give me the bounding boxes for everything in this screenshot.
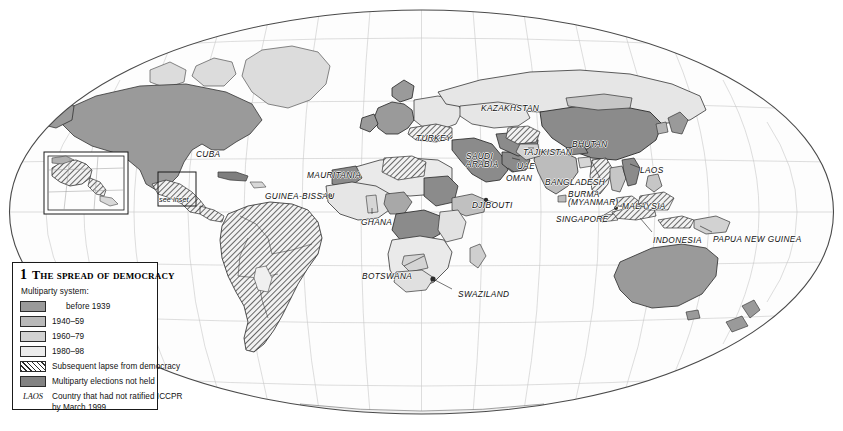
map-label-djibouti: DJIBOUTI (472, 201, 513, 209)
legend-entry-before-1939: before 1939 (20, 299, 151, 313)
map-label-cuba: CUBA (196, 150, 220, 158)
legend-entry-1940-59: 1940–59 (20, 314, 151, 328)
legend-label-no-elections: Multiparty elections not held (52, 377, 155, 386)
map-label-bangladesh: BANGLADESH (545, 178, 605, 186)
legend-entry-lapse: Subsequent lapse from democracy (20, 359, 151, 373)
legend-swatch-1940-59 (20, 316, 46, 327)
map-label-malaysia: MALAYSIA (622, 202, 666, 210)
map-label-ghana: GHANA (361, 218, 392, 226)
map-label-saudi-arabia: SAUDI ARABIA (466, 152, 499, 169)
map-label-papua-new-guinea: PAPUA NEW GUINEA (713, 235, 802, 243)
map-label-indonesia: INDONESIA (653, 236, 702, 244)
legend-swatch-1960-79 (20, 331, 46, 342)
map-label-oman: OMAN (506, 174, 532, 182)
map-label-burma-myanmar: BURMA (MYANMAR) (568, 190, 619, 207)
map-label-guinea-bissau: GUINEA-BISSAU (265, 192, 335, 200)
legend-entry-iccpr: LAOS Country that had not ratified ICCPR (20, 389, 151, 403)
inset-map (44, 152, 128, 214)
legend-swatch-before-1939 (20, 301, 46, 312)
map-label-singapore: SINGAPORE (556, 215, 608, 223)
map-label-kazakhstan: KAZAKHSTAN (481, 104, 539, 112)
legend-entry-no-elections: Multiparty elections not held (20, 374, 151, 388)
legend-entry-1980-98: 1980–98 (20, 344, 151, 358)
legend-label-1980-98: 1980–98 (52, 347, 84, 356)
legend-label-1960-79: 1960–79 (52, 332, 84, 341)
legend: 1 The spread of democracy Multiparty sys… (12, 262, 158, 410)
legend-label-lapse: Subsequent lapse from democracy (52, 362, 180, 371)
map-label-uae: UAE (517, 162, 535, 170)
region-tasmania (686, 310, 700, 320)
legend-label-iccpr-line2: by March 1999 (52, 403, 151, 412)
map-label-laos: LAOS (640, 166, 664, 174)
map-label-turkey: TURKEY (416, 134, 452, 142)
map-label-see-inset: see inset (159, 196, 189, 203)
legend-figure-number: 1 (20, 268, 27, 282)
region-sri-lanka (558, 195, 566, 202)
legend-subhead: Multiparty system: (21, 287, 151, 296)
legend-title-text: The spread of democracy (32, 269, 175, 281)
map-label-mauritania: MAURITANIA (307, 171, 361, 179)
legend-swatch-lapse (20, 361, 46, 372)
legend-title: 1 The spread of democracy (20, 268, 151, 282)
legend-label-before-1939: before 1939 (66, 302, 110, 311)
map-label-botswana: BOTSWANA (362, 272, 412, 280)
map-label-bhutan: BHUTAN (572, 140, 608, 148)
region-bangladesh (578, 157, 592, 168)
region-korea (656, 122, 668, 134)
legend-label-1940-59: 1940–59 (52, 317, 84, 326)
legend-code-laos: LAOS (20, 392, 46, 401)
legend-swatch-1980-98 (20, 346, 46, 357)
map-label-tajikistan: TAJIKISTAN (523, 148, 572, 156)
map-label-swaziland: SWAZILAND (458, 290, 509, 298)
world-map-figure: CUBA see inset MAURITANIA GUINEA-BISSAU … (0, 0, 843, 431)
legend-label-iccpr-line1: Country that had not ratified ICCPR (52, 392, 183, 401)
legend-swatch-no-elections (20, 376, 46, 387)
legend-entry-1960-79: 1960–79 (20, 329, 151, 343)
